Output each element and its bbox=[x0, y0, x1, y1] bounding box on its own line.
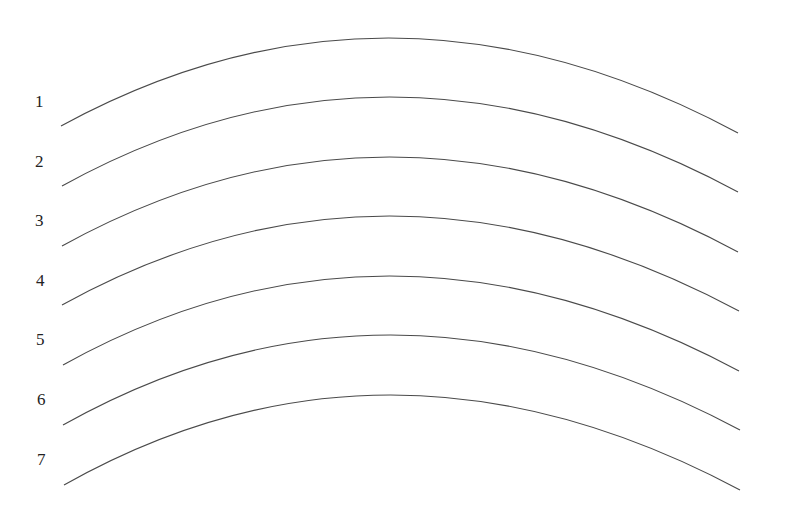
arc-4 bbox=[62, 216, 739, 311]
arc-label-3: 3 bbox=[35, 211, 44, 230]
arc-5 bbox=[63, 276, 739, 371]
arc-3 bbox=[62, 157, 738, 252]
label-group: 1234567 bbox=[35, 92, 46, 469]
arc-label-7: 7 bbox=[37, 450, 46, 469]
arc-label-6: 6 bbox=[37, 390, 46, 409]
arc-2 bbox=[62, 97, 738, 192]
arc-1 bbox=[61, 38, 738, 133]
arc-label-4: 4 bbox=[36, 271, 45, 290]
arc-label-5: 5 bbox=[36, 330, 45, 349]
arc-7 bbox=[64, 395, 740, 490]
arc-diagram: 1234567 bbox=[0, 0, 785, 516]
arc-label-2: 2 bbox=[35, 152, 44, 171]
arc-6 bbox=[63, 335, 740, 430]
arc-group bbox=[61, 38, 740, 490]
arc-label-1: 1 bbox=[35, 92, 44, 111]
